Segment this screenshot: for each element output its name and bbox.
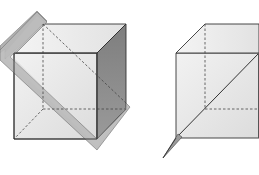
right-cube <box>163 24 259 158</box>
cube-figure <box>0 0 259 175</box>
top-face <box>176 24 259 53</box>
diagram-canvas <box>0 0 259 175</box>
wedge-edge <box>163 138 176 158</box>
left-cube <box>0 11 130 150</box>
